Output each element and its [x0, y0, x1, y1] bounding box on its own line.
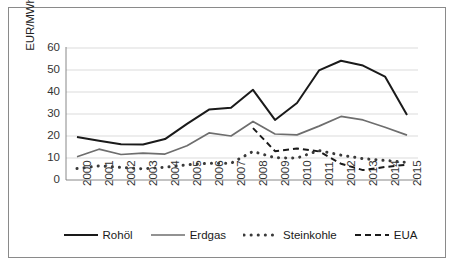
legend-label: Erdgas — [190, 229, 226, 241]
legend-swatch-steinkohle-icon — [243, 230, 279, 240]
series-line-erdgas — [77, 116, 407, 156]
legend-item-eua[interactable]: EUA — [354, 229, 418, 241]
legend-swatch-erdgas-icon — [150, 230, 186, 240]
figure-root: EUR/MWhth bzw. EUR/t CO2 0102030405060 2… — [0, 0, 455, 266]
series-line-steinkohle — [77, 151, 407, 169]
legend-item-steinkohle[interactable]: Steinkohle — [243, 229, 337, 241]
legend-swatch-rohl-icon — [63, 230, 99, 240]
legend-item-erdgas[interactable]: Erdgas — [150, 229, 226, 241]
legend-label: Steinkohle — [283, 229, 337, 241]
series-line-rohl — [77, 61, 407, 145]
chart-legend: RohölErdgasSteinkohleEUA — [60, 226, 420, 244]
legend-label: Rohöl — [103, 229, 133, 241]
legend-swatch-eua-icon — [354, 230, 390, 240]
legend-label: EUA — [394, 229, 418, 241]
legend-item-rohl[interactable]: Rohöl — [63, 229, 133, 241]
